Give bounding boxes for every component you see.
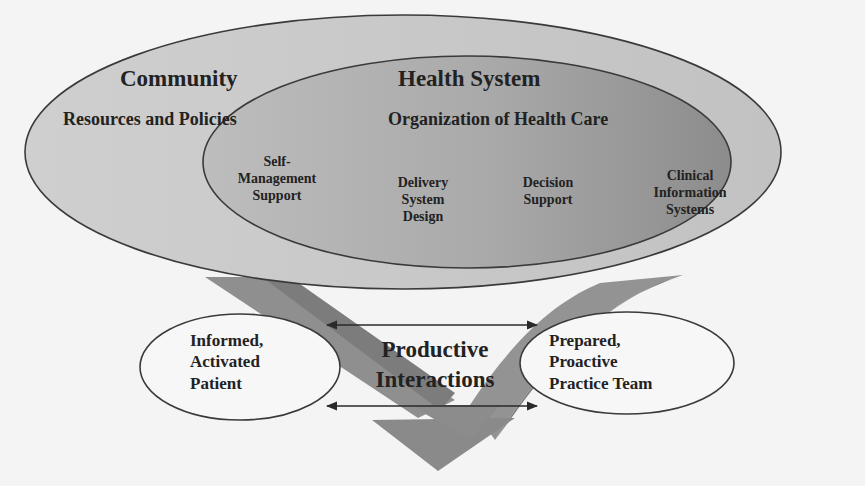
community-title: Community	[120, 66, 238, 92]
community-subtitle: Resources and Policies	[63, 109, 237, 130]
component-self-management-support: Self- Management Support	[222, 154, 332, 204]
productive-interactions-label: Productive Interactions	[355, 335, 515, 395]
component-line: Systems	[640, 202, 740, 219]
component-line: Clinical	[640, 168, 740, 185]
interactions-line: Productive	[355, 335, 515, 365]
patient-line: Activated	[190, 351, 263, 372]
component-line: Decision	[508, 175, 588, 192]
team-line: Proactive	[549, 351, 652, 372]
team-line: Practice Team	[549, 373, 652, 394]
chronic-care-model-diagram: Community Resources and Policies Health …	[0, 0, 865, 486]
practice-team-label: Prepared, Proactive Practice Team	[549, 330, 652, 394]
component-line: Support	[508, 192, 588, 209]
patient-label: Informed, Activated Patient	[190, 330, 263, 394]
interactions-line: Interactions	[355, 365, 515, 395]
component-line: Delivery	[378, 175, 468, 192]
patient-line: Patient	[190, 373, 263, 394]
component-line: Management	[222, 171, 332, 188]
component-decision-support: Decision Support	[508, 175, 588, 209]
component-clinical-information-systems: Clinical Information Systems	[640, 168, 740, 218]
health-system-title: Health System	[398, 66, 540, 92]
component-line: Design	[378, 209, 468, 226]
health-system-subtitle: Organization of Health Care	[388, 109, 608, 130]
component-line: System	[378, 192, 468, 209]
component-line: Self-	[222, 154, 332, 171]
component-delivery-system-design: Delivery System Design	[378, 175, 468, 225]
patient-line: Informed,	[190, 330, 263, 351]
team-line: Prepared,	[549, 330, 652, 351]
component-line: Support	[222, 188, 332, 205]
component-line: Information	[640, 185, 740, 202]
